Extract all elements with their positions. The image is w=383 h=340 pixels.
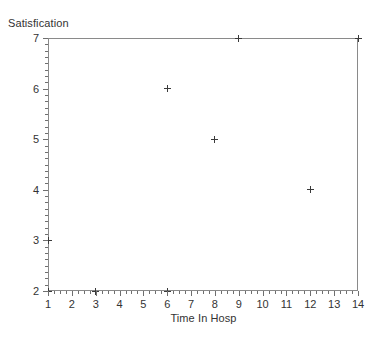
x-axis-minor-tick xyxy=(149,291,150,294)
x-axis-minor-tick xyxy=(340,291,341,294)
y-axis-minor-tick xyxy=(45,209,48,210)
y-axis-minor-tick xyxy=(45,196,48,197)
y-axis-minor-tick xyxy=(45,234,48,235)
y-axis-tick xyxy=(43,139,48,140)
y-axis-minor-tick xyxy=(45,272,48,273)
data-point-marker xyxy=(211,136,218,143)
x-axis-tick-label: 3 xyxy=(86,298,106,310)
x-axis-minor-tick xyxy=(78,291,79,294)
x-axis-tick-label: 5 xyxy=(133,298,153,310)
y-axis-minor-tick xyxy=(45,101,48,102)
y-axis-minor-tick xyxy=(45,177,48,178)
x-axis-minor-tick xyxy=(108,291,109,294)
y-axis-minor-tick xyxy=(45,127,48,128)
x-axis-minor-tick xyxy=(316,291,317,294)
x-axis-tick xyxy=(239,291,240,296)
x-axis-tick-label: 1 xyxy=(38,298,58,310)
x-axis-tick-label: 12 xyxy=(300,298,320,310)
x-axis-minor-tick xyxy=(131,291,132,294)
y-axis-minor-tick xyxy=(45,165,48,166)
x-axis-tick-label: 6 xyxy=(157,298,177,310)
x-axis-minor-tick xyxy=(126,291,127,294)
x-axis-tick xyxy=(310,291,311,296)
x-axis-minor-tick xyxy=(155,291,156,294)
y-axis-minor-tick xyxy=(45,259,48,260)
x-axis-tick-label: 11 xyxy=(276,298,296,310)
x-axis-minor-tick xyxy=(185,291,186,294)
x-axis-minor-tick xyxy=(203,291,204,294)
y-axis-title: Satisfication xyxy=(8,17,69,30)
y-axis-tick xyxy=(43,190,48,191)
x-axis-minor-tick xyxy=(54,291,55,294)
y-axis-minor-tick xyxy=(45,114,48,115)
x-axis-minor-tick xyxy=(197,291,198,294)
x-axis-title: Time In Hosp xyxy=(48,312,359,325)
y-axis-minor-tick xyxy=(45,152,48,153)
y-axis-minor-tick xyxy=(45,215,48,216)
y-axis-minor-tick xyxy=(45,285,48,286)
x-axis-minor-tick xyxy=(173,291,174,294)
y-axis-minor-tick xyxy=(45,202,48,203)
x-axis-tick xyxy=(96,291,97,296)
x-axis-minor-tick xyxy=(269,291,270,294)
plot-area xyxy=(48,38,358,291)
x-axis-minor-tick xyxy=(84,291,85,294)
x-axis-minor-tick xyxy=(292,291,293,294)
x-axis-tick xyxy=(263,291,264,296)
x-axis-tick xyxy=(72,291,73,296)
y-axis-minor-tick xyxy=(45,51,48,52)
x-axis-tick xyxy=(48,291,49,296)
x-axis-minor-tick xyxy=(179,291,180,294)
data-point-marker xyxy=(164,85,171,92)
y-axis-minor-tick xyxy=(45,63,48,64)
y-axis-minor-tick xyxy=(45,108,48,109)
x-axis-minor-tick xyxy=(161,291,162,294)
y-axis-minor-tick xyxy=(45,183,48,184)
y-axis-minor-tick xyxy=(45,70,48,71)
y-axis-tick-label: 2 xyxy=(21,285,39,297)
x-axis-tick xyxy=(286,291,287,296)
y-axis-tick xyxy=(43,240,48,241)
y-axis-minor-tick xyxy=(45,266,48,267)
x-axis-minor-tick xyxy=(346,291,347,294)
x-axis-minor-tick xyxy=(245,291,246,294)
x-axis-tick xyxy=(191,291,192,296)
x-axis-minor-tick xyxy=(114,291,115,294)
y-axis-minor-tick xyxy=(45,221,48,222)
y-axis-tick-label: 3 xyxy=(21,234,39,246)
y-axis-minor-tick xyxy=(45,82,48,83)
y-axis-minor-tick xyxy=(45,253,48,254)
x-axis-tick xyxy=(143,291,144,296)
x-axis-minor-tick xyxy=(281,291,282,294)
scatter-plot: Satisfication 1234567891011121314234567 … xyxy=(0,0,383,340)
y-axis-minor-tick xyxy=(45,76,48,77)
x-axis-tick xyxy=(120,291,121,296)
y-axis-minor-tick xyxy=(45,133,48,134)
x-axis-minor-tick xyxy=(90,291,91,294)
x-axis-minor-tick xyxy=(66,291,67,294)
y-axis-minor-tick xyxy=(45,228,48,229)
x-axis-minor-tick xyxy=(328,291,329,294)
x-axis-tick-label: 4 xyxy=(110,298,130,310)
y-axis-minor-tick xyxy=(45,95,48,96)
x-axis-tick-label: 7 xyxy=(181,298,201,310)
x-axis-tick-label: 9 xyxy=(229,298,249,310)
x-axis-tick-label: 14 xyxy=(348,298,368,310)
x-axis-minor-tick xyxy=(251,291,252,294)
y-axis-tick xyxy=(43,38,48,39)
x-axis-minor-tick xyxy=(137,291,138,294)
x-axis-tick-label: 2 xyxy=(62,298,82,310)
x-axis-minor-tick xyxy=(275,291,276,294)
x-axis-tick xyxy=(215,291,216,296)
x-axis-tick xyxy=(334,291,335,296)
x-axis-minor-tick xyxy=(298,291,299,294)
x-axis-minor-tick xyxy=(227,291,228,294)
x-axis-minor-tick xyxy=(257,291,258,294)
y-axis-tick-label: 6 xyxy=(21,83,39,95)
x-axis-minor-tick xyxy=(322,291,323,294)
y-axis-tick-label: 7 xyxy=(21,32,39,44)
y-axis-minor-tick xyxy=(45,278,48,279)
y-axis-minor-tick xyxy=(45,146,48,147)
y-axis-minor-tick xyxy=(45,247,48,248)
x-axis-minor-tick xyxy=(209,291,210,294)
